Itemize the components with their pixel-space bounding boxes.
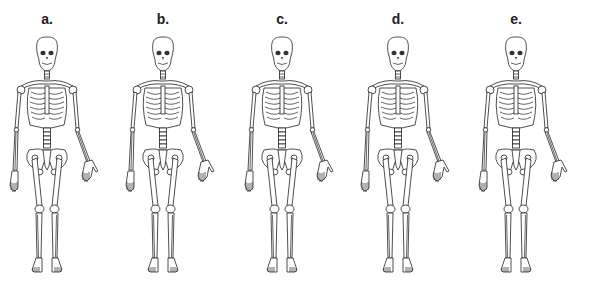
skeleton-icon (0, 0, 106, 290)
skeleton-panel: d. (339, 0, 457, 290)
skeleton-icon (457, 0, 575, 290)
skeleton-panel: c. (223, 0, 341, 290)
skeleton-panel: b. (104, 0, 222, 290)
skeleton-icon (339, 0, 457, 290)
skeleton-panel: a. (0, 0, 106, 290)
skeleton-icon (223, 0, 341, 290)
skeleton-panel: e. (457, 0, 575, 290)
skeleton-icon (104, 0, 222, 290)
